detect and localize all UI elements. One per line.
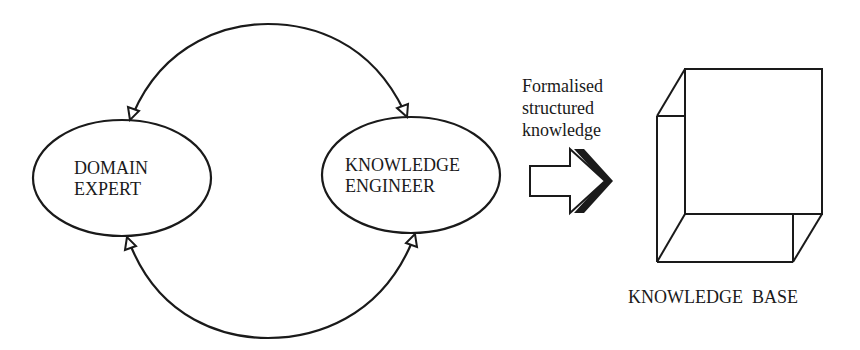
arrowhead-top-right-icon [397, 104, 408, 117]
flow-label-line3: knowledge [522, 119, 603, 141]
top-arc-connector [133, 24, 404, 114]
arrowhead-bottom-right-icon [406, 234, 417, 247]
domain-expert-line1: DOMAIN [74, 158, 148, 179]
knowledge-base-box-icon [657, 69, 822, 262]
knowledge-engineer-label: KNOWLEDGE ENGINEER [345, 155, 460, 197]
domain-expert-line2: EXPERT [74, 179, 148, 200]
arrowhead-bottom-left-icon [125, 237, 136, 250]
domain-expert-label: DOMAIN EXPERT [74, 158, 148, 200]
block-arrow-icon [530, 149, 613, 213]
knowledge-engineer-line1: KNOWLEDGE [345, 155, 460, 176]
flow-label: Formalised structured knowledge [522, 75, 603, 141]
bottom-arc-connector [130, 242, 412, 338]
knowledge-engineer-line2: ENGINEER [345, 176, 460, 197]
flow-label-line1: Formalised [522, 75, 603, 97]
arrowhead-top-left-icon [128, 107, 139, 120]
knowledge-base-label: KNOWLEDGE BASE [628, 287, 798, 308]
flow-label-line2: structured [522, 97, 603, 119]
